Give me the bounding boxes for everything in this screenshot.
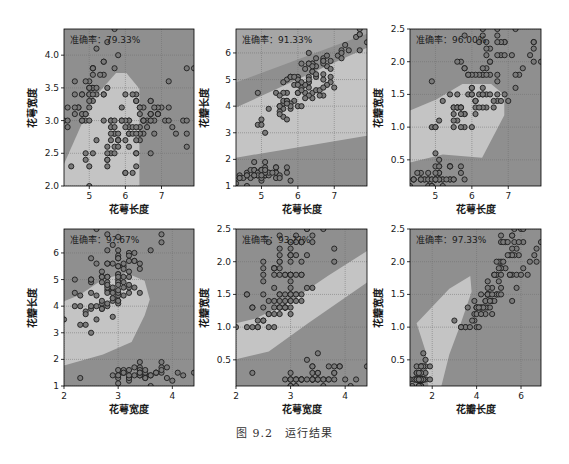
data-point — [283, 272, 288, 277]
data-point — [94, 46, 99, 51]
data-point — [458, 125, 463, 130]
data-point — [313, 56, 318, 61]
data-point — [88, 256, 93, 261]
data-point — [477, 105, 482, 110]
data-point — [303, 96, 308, 101]
data-point — [261, 318, 266, 323]
data-point — [137, 105, 142, 110]
data-point — [304, 285, 309, 290]
y-tick-label: 1.5 — [391, 89, 405, 99]
data-point — [244, 173, 249, 178]
y-tick-label: 2 — [53, 354, 59, 364]
data-point — [437, 164, 442, 169]
data-point — [126, 144, 131, 149]
x-tick-label: 6 — [123, 191, 129, 201]
data-point — [496, 279, 501, 284]
data-point — [94, 304, 99, 309]
data-point — [119, 118, 124, 123]
data-point — [429, 79, 434, 84]
data-point — [116, 381, 121, 386]
data-point — [87, 85, 92, 90]
data-point — [255, 318, 260, 323]
y-tick-label: 0.5 — [391, 155, 405, 165]
data-point — [116, 53, 121, 58]
data-point — [101, 92, 106, 97]
data-point — [259, 122, 264, 127]
data-point — [110, 296, 115, 301]
data-point — [288, 377, 293, 382]
data-point — [531, 39, 536, 44]
data-point — [451, 177, 456, 182]
data-point — [321, 72, 326, 77]
data-point — [173, 131, 178, 136]
data-point — [484, 53, 489, 58]
y-axis-label: 花瓣长度 — [198, 87, 210, 128]
data-point — [470, 318, 475, 323]
data-point — [299, 377, 304, 382]
data-point — [299, 298, 304, 303]
data-point — [263, 167, 268, 172]
data-point — [164, 375, 169, 380]
data-point — [272, 325, 277, 330]
data-point — [332, 259, 337, 264]
data-point — [343, 42, 348, 47]
data-point — [458, 105, 463, 110]
y-tick-label: 1 — [53, 381, 59, 391]
data-point — [79, 118, 84, 123]
data-point — [130, 170, 135, 175]
data-point — [315, 351, 320, 356]
x-tick-label: 5 — [433, 191, 439, 201]
data-point — [143, 367, 148, 372]
data-point — [458, 325, 463, 330]
data-point — [132, 285, 137, 290]
data-point — [491, 98, 496, 103]
data-point — [426, 170, 431, 175]
data-point — [339, 56, 344, 61]
data-point — [288, 279, 293, 284]
data-point — [83, 312, 88, 317]
x-tick-label: 3 — [115, 391, 121, 401]
data-point — [184, 131, 189, 136]
data-point — [126, 253, 131, 258]
data-point — [452, 318, 457, 323]
data-point — [175, 370, 180, 375]
data-point — [99, 280, 104, 285]
data-point — [123, 138, 128, 143]
data-point — [181, 373, 186, 378]
data-point — [299, 61, 304, 66]
data-point — [495, 39, 500, 44]
data-point — [433, 170, 438, 175]
accuracy-annotation: 准确率：91.33% — [242, 34, 313, 45]
data-point — [78, 322, 83, 327]
subplot-1: 5672.02.53.03.54.0花萼长度花萼宽度准确率：79.33% — [26, 26, 197, 215]
data-point — [502, 92, 507, 97]
data-point — [498, 292, 503, 297]
data-point — [148, 98, 153, 103]
data-point — [427, 377, 432, 382]
data-point — [88, 304, 93, 309]
data-point — [266, 311, 271, 316]
data-point — [328, 74, 333, 79]
data-point — [532, 253, 537, 258]
data-point — [495, 72, 500, 77]
data-point — [473, 111, 478, 116]
x-tick-label: 4 — [169, 391, 175, 401]
data-point — [148, 151, 153, 156]
data-point — [72, 79, 77, 84]
x-axis-label: 花瓣长度 — [456, 403, 497, 415]
data-point — [141, 118, 146, 123]
data-point — [495, 53, 500, 58]
y-axis-label: 花瓣宽度 — [198, 287, 210, 328]
data-point — [166, 105, 171, 110]
data-point — [494, 259, 499, 264]
data-point — [527, 259, 532, 264]
data-point — [87, 105, 92, 110]
accuracy-annotation: 准确率：97.33% — [416, 234, 487, 245]
data-point — [328, 66, 333, 71]
data-point — [250, 305, 255, 310]
y-tick-label: 1.0 — [391, 322, 406, 332]
data-point — [105, 290, 110, 295]
data-point — [315, 370, 320, 375]
data-point — [292, 74, 297, 79]
y-tick-label: 0.5 — [391, 355, 405, 365]
